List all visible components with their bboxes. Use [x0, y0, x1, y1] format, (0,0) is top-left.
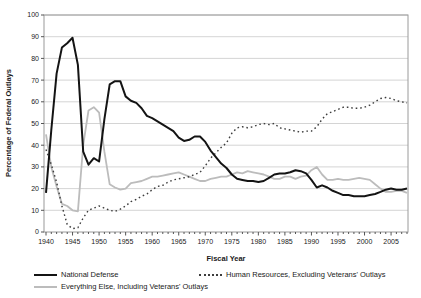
x-tick-label: 1975 [224, 238, 240, 245]
x-tick-label: 2000 [357, 238, 373, 245]
x-tick-label: 1985 [277, 238, 293, 245]
x-tick-label: 1980 [251, 238, 267, 245]
legend-swatch-solid-black-line [34, 274, 57, 276]
y-tick-label: 60 [31, 98, 39, 105]
legend-item-national-defense: National Defense [34, 270, 119, 279]
x-tick-label: 1970 [197, 238, 213, 245]
legend-item-everything-else: Everything Else, Including Veterans' Out… [34, 282, 208, 291]
y-tick-label: 100 [27, 11, 39, 18]
y-tick-label: 10 [31, 207, 39, 214]
y-tick-label: 70 [31, 77, 39, 84]
legend-swatch-dotted-line [199, 274, 222, 276]
y-tick-label: 20 [31, 185, 39, 192]
x-tick-label: 1990 [304, 238, 320, 245]
y-tick-label: 80 [31, 55, 39, 62]
x-tick-label: 1995 [330, 238, 346, 245]
legend-swatch-solid-gray-line [34, 286, 57, 288]
y-tick-label: 50 [31, 120, 39, 127]
y-axis-title: Percentage of Federal Outlays [4, 58, 16, 188]
y-axis: 0102030405060708090100 [27, 11, 44, 235]
x-tick-label: 1950 [91, 238, 107, 245]
x-axis: 1940194519501955196019651970197519801985… [38, 232, 407, 245]
y-tick-label: 0 [35, 228, 39, 235]
x-tick-label: 1940 [38, 238, 54, 245]
legend-label: Everything Else, Including Veterans' Out… [61, 282, 208, 291]
legend-label: National Defense [61, 270, 119, 279]
x-tick-label: 2005 [383, 238, 399, 245]
x-axis-title: Fiscal Year [44, 254, 408, 263]
x-tick-label: 1965 [171, 238, 187, 245]
x-tick-label: 1960 [144, 238, 160, 245]
legend-label: Human Resources, Excluding Veterans' Out… [226, 270, 385, 279]
chart-figure: 0102030405060708090100194019451950195519… [0, 0, 421, 298]
x-tick-label: 1955 [118, 238, 134, 245]
x-tick-label: 1945 [65, 238, 81, 245]
y-tick-label: 30 [31, 163, 39, 170]
y-tick-label: 90 [31, 33, 39, 40]
y-tick-label: 40 [31, 142, 39, 149]
legend-item-human-resources: Human Resources, Excluding Veterans' Out… [199, 270, 385, 279]
